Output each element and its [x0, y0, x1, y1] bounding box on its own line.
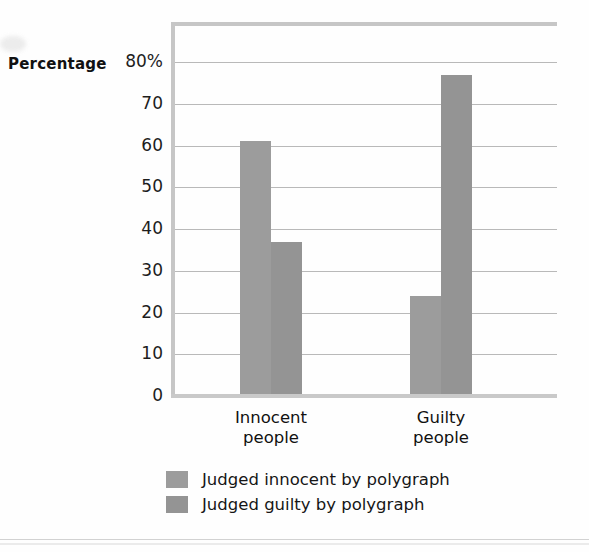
bar — [271, 242, 302, 396]
legend-label: Judged innocent by polygraph — [202, 470, 450, 489]
legend-label: Judged guilty by polygraph — [202, 495, 424, 514]
x-category-label-line: people — [371, 428, 511, 448]
legend-color-swatch — [166, 496, 188, 513]
bars-layer — [0, 22, 589, 396]
legend-item: Judged guilty by polygraph — [166, 493, 496, 516]
bar — [441, 75, 472, 396]
page-edge-shadow — [0, 543, 589, 545]
page-edge-line — [0, 539, 589, 540]
x-category-label-line: Innocent — [201, 408, 341, 428]
x-category-label: Guiltypeople — [371, 408, 511, 448]
bar — [240, 141, 271, 396]
x-axis-line — [171, 394, 557, 398]
scanned-page: Percentage 80%706050403020100 Innocentpe… — [0, 0, 589, 552]
bar — [410, 296, 441, 396]
x-category-label-line: people — [201, 428, 341, 448]
legend-color-swatch — [166, 471, 188, 488]
x-category-label: Innocentpeople — [201, 408, 341, 448]
legend-item: Judged innocent by polygraph — [166, 468, 496, 491]
chart-legend: Judged innocent by polygraphJudged guilt… — [166, 468, 496, 518]
x-category-label-line: Guilty — [371, 408, 511, 428]
